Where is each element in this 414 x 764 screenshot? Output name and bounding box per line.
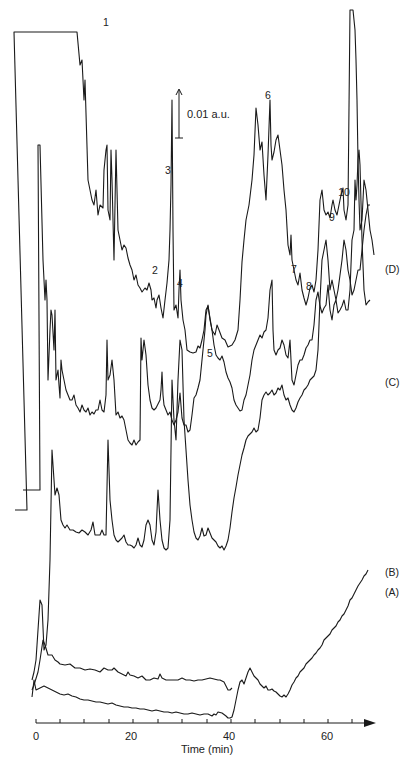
peak-label-2: 2 bbox=[152, 264, 158, 276]
trace-label-b: (B) bbox=[385, 566, 399, 578]
chromatogram-chart: 0.01 a.u. 1 2 3 4 5 6 7 8 9 10 (D) (C) (… bbox=[0, 0, 414, 764]
peak-label-5: 5 bbox=[207, 347, 213, 359]
peak-labels: 1 2 3 4 5 6 7 8 9 10 bbox=[103, 16, 350, 359]
x-axis-arrow-icon bbox=[364, 719, 376, 727]
x-axis: 0 20 40 60 Time (min) bbox=[33, 719, 376, 755]
peak-label-8: 8 bbox=[306, 280, 312, 292]
trace-label-a: (A) bbox=[385, 586, 399, 598]
trace-b-upper bbox=[32, 205, 370, 680]
peak-label-1: 1 bbox=[103, 16, 109, 28]
trace-a bbox=[32, 570, 368, 718]
peak-label-3: 3 bbox=[165, 164, 171, 176]
peak-label-9: 9 bbox=[329, 211, 335, 223]
x-tick-label-60: 60 bbox=[321, 730, 333, 742]
peak-label-6: 6 bbox=[265, 89, 271, 101]
peak-label-4: 4 bbox=[177, 277, 183, 289]
trace-b bbox=[32, 640, 232, 690]
peak-label-7: 7 bbox=[291, 263, 297, 275]
trace-c bbox=[23, 145, 370, 490]
trace-d bbox=[14, 10, 374, 510]
scale-bar-label: 0.01 a.u. bbox=[187, 108, 230, 120]
x-tick-label-0: 0 bbox=[33, 730, 39, 742]
scale-bar: 0.01 a.u. bbox=[175, 89, 230, 138]
peak-label-10: 10 bbox=[338, 186, 350, 198]
trace-label-d: (D) bbox=[385, 263, 400, 275]
x-axis-title: Time (min) bbox=[181, 743, 233, 755]
x-tick-label-20: 20 bbox=[125, 730, 137, 742]
x-tick-label-40: 40 bbox=[223, 730, 235, 742]
trace-label-c: (C) bbox=[385, 376, 400, 388]
